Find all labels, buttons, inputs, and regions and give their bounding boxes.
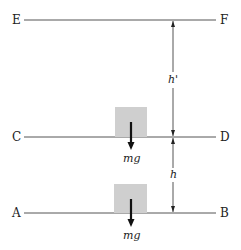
force-label-upper: mg: [123, 153, 140, 164]
label-d: D: [220, 131, 230, 143]
label-c: C: [12, 131, 21, 143]
label-e: E: [12, 14, 21, 26]
label-a: A: [12, 207, 21, 219]
height-label-h-prime: h': [168, 74, 178, 85]
height-label-h: h: [170, 169, 177, 180]
label-b: B: [220, 207, 229, 219]
force-label-lower: mg: [123, 230, 140, 241]
label-f: F: [220, 14, 228, 26]
diagram-canvas: [0, 0, 241, 250]
